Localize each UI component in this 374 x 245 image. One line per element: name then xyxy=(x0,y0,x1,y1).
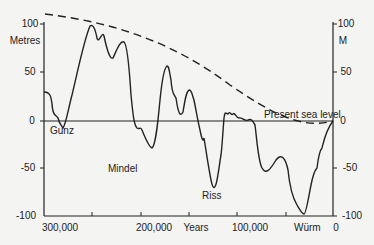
sea-level-chart: 100 50 0 -50 -100 Metres 100 50 0 -50 -1… xyxy=(0,0,374,245)
x-tick-100000: 100,000 xyxy=(232,222,269,233)
left-tick-minus50: -50 xyxy=(21,162,36,173)
right-axis-label: M xyxy=(339,35,347,46)
wurm-label: Würm xyxy=(294,222,321,233)
left-tick-50: 50 xyxy=(24,66,36,77)
right-tick-minus100: -100 xyxy=(342,210,362,221)
present-sea-level-label: Present sea level xyxy=(264,109,341,120)
right-tick-minus50: -50 xyxy=(343,162,358,173)
right-tick-0: 0 xyxy=(340,115,346,126)
left-axis-label: Metres xyxy=(10,35,41,46)
x-tick-300000: 300,000 xyxy=(42,222,79,233)
riss-label: Riss xyxy=(202,190,221,201)
left-tick-0: 0 xyxy=(29,115,35,126)
x-tick-0: 0 xyxy=(333,222,339,233)
right-tick-100: 100 xyxy=(338,18,355,29)
right-tick-50: 50 xyxy=(340,66,352,77)
mindel-label: Mindel xyxy=(108,163,137,174)
left-tick-minus100: -100 xyxy=(16,210,36,221)
left-tick-100: 100 xyxy=(22,18,39,29)
x-tick-200000: 200,000 xyxy=(136,222,173,233)
x-axis-label: Years xyxy=(183,222,208,233)
